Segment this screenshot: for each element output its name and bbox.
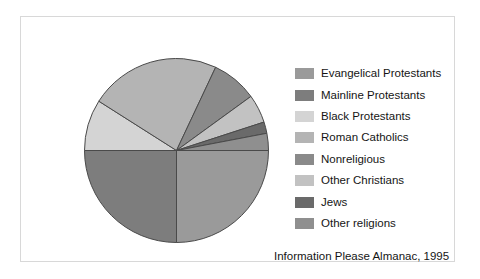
legend-label-roman-catholics: Roman Catholics — [321, 131, 409, 144]
legend-label-evangelical-protestants: Evangelical Protestants — [321, 67, 441, 80]
legend-item-roman-catholics[interactable]: Roman Catholics — [295, 127, 475, 148]
legend-item-other-religions[interactable]: Other religions — [295, 213, 475, 234]
legend-label-nonreligious: Nonreligious — [321, 153, 385, 166]
legend-item-mainline-protestants[interactable]: Mainline Protestants — [295, 84, 475, 105]
source-caption: Information Please Almanac, 1995 — [274, 250, 449, 262]
legend-label-other-religions: Other religions — [321, 217, 396, 230]
legend-label-mainline-protestants: Mainline Protestants — [321, 89, 425, 102]
legend-swatch-other-christians — [295, 175, 314, 186]
legend-swatch-evangelical-protestants — [295, 68, 314, 79]
chart-legend: Evangelical Protestants Mainline Protest… — [295, 63, 475, 234]
pie-chart — [83, 57, 270, 244]
legend-label-other-christians: Other Christians — [321, 174, 404, 187]
pie-slice-group — [85, 59, 269, 243]
pie-chart-svg — [83, 57, 270, 244]
legend-swatch-other-religions — [295, 218, 314, 229]
legend-swatch-mainline-protestants — [295, 90, 314, 101]
legend-swatch-jews — [295, 197, 314, 208]
legend-item-jews[interactable]: Jews — [295, 191, 475, 212]
pie-slice — [177, 151, 269, 243]
legend-swatch-roman-catholics — [295, 132, 314, 143]
figure-container: Evangelical Protestants Mainline Protest… — [0, 0, 480, 279]
legend-item-other-christians[interactable]: Other Christians — [295, 170, 475, 191]
legend-item-black-protestants[interactable]: Black Protestants — [295, 106, 475, 127]
legend-label-jews: Jews — [321, 196, 347, 209]
legend-swatch-nonreligious — [295, 154, 314, 165]
legend-label-black-protestants: Black Protestants — [321, 110, 410, 123]
legend-item-evangelical-protestants[interactable]: Evangelical Protestants — [295, 63, 475, 84]
figure-frame: Evangelical Protestants Mainline Protest… — [20, 16, 455, 262]
legend-item-nonreligious[interactable]: Nonreligious — [295, 149, 475, 170]
pie-slice — [85, 151, 177, 243]
legend-swatch-black-protestants — [295, 111, 314, 122]
